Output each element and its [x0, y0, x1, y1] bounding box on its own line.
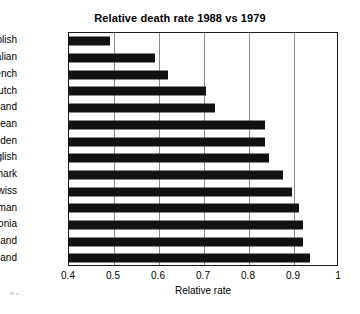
x-tick-label: 1 — [335, 270, 341, 281]
scan-artifact — [10, 292, 14, 295]
bar — [69, 254, 310, 263]
bar — [69, 104, 215, 113]
bar — [69, 70, 168, 79]
plot-area — [68, 32, 338, 266]
bar — [69, 187, 292, 196]
bar-row — [69, 233, 337, 250]
x-tick-label: 0.5 — [106, 270, 120, 281]
x-tick-label: 0.6 — [151, 270, 165, 281]
category-label: Wtd mean — [0, 119, 17, 129]
bar — [69, 37, 110, 46]
bar-row — [69, 133, 337, 150]
bar — [69, 221, 303, 230]
scan-artifact — [16, 293, 19, 295]
category-label: Dutch — [0, 86, 17, 96]
bar-row — [69, 33, 337, 50]
bar — [69, 154, 269, 163]
x-tick-label: 0.8 — [241, 270, 255, 281]
category-label: English — [0, 152, 17, 162]
x-tick-label: 0.4 — [61, 270, 75, 281]
bar — [69, 204, 299, 213]
bar-row — [69, 117, 337, 134]
bar-row — [69, 150, 337, 167]
bar-row — [69, 66, 337, 83]
bar — [69, 120, 265, 129]
bar-row — [69, 167, 337, 184]
x-axis-title: Relative rate — [68, 285, 338, 296]
bar — [69, 137, 265, 146]
bar-row — [69, 50, 337, 67]
chart-title: Relative death rate 1988 vs 1979 — [0, 12, 360, 24]
x-tick-label: 0.7 — [196, 270, 210, 281]
category-label: Swiss — [0, 186, 17, 196]
category-label: Estonia — [0, 219, 17, 229]
category-label: Sweden — [0, 136, 17, 146]
x-tick-label: 0.9 — [286, 270, 300, 281]
category-label: Italian — [0, 52, 17, 62]
category-label: Scotland — [0, 236, 17, 246]
bar — [69, 87, 206, 96]
bar — [69, 237, 303, 246]
bar-row — [69, 83, 337, 100]
bar-row — [69, 250, 337, 267]
category-label: Polish — [0, 35, 17, 45]
bar-row — [69, 183, 337, 200]
bar — [69, 170, 283, 179]
category-label: Iceland — [0, 253, 17, 263]
category-label: German — [0, 203, 17, 213]
bar-series — [69, 33, 337, 265]
bar-row — [69, 200, 337, 217]
bar-chart: Relative death rate 1988 vs 1979 PolishI… — [0, 0, 360, 314]
bar — [69, 54, 155, 63]
category-label: Finland — [0, 102, 17, 112]
category-label: Denmark — [0, 169, 17, 179]
bar-row — [69, 100, 337, 117]
category-label: French — [0, 69, 17, 79]
bar-row — [69, 217, 337, 234]
